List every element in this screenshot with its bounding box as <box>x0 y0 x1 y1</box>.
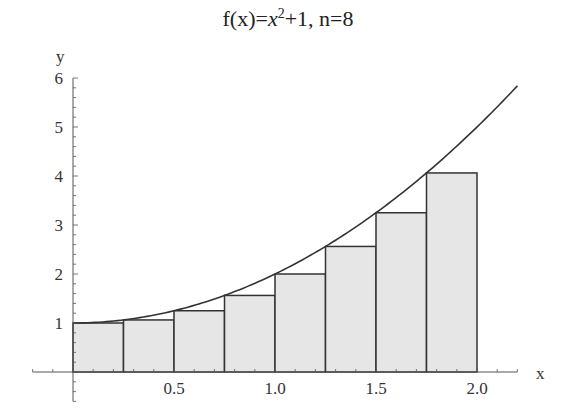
bar-3 <box>174 311 225 372</box>
x-tick-label: 2.0 <box>466 379 487 398</box>
x-tick-label: 1.5 <box>365 379 386 398</box>
bar-6 <box>326 246 377 372</box>
y-axis-label: y <box>56 47 65 66</box>
y-tick-label: 2 <box>55 265 64 284</box>
riemann-bars <box>73 173 477 372</box>
bar-1 <box>73 323 124 372</box>
riemann-sum-plot: 0.51.01.52.0123456 x y <box>0 0 576 416</box>
bar-5 <box>275 274 326 372</box>
bar-7 <box>376 213 427 372</box>
x-tick-label: 1.0 <box>264 379 285 398</box>
bar-8 <box>427 173 478 372</box>
bar-4 <box>225 295 276 372</box>
y-tick-label: 3 <box>55 216 64 235</box>
y-tick-label: 4 <box>55 167 64 186</box>
y-tick-label: 6 <box>55 69 64 88</box>
bar-2 <box>124 320 175 372</box>
y-tick-label: 1 <box>55 314 64 333</box>
x-tick-label: 0.5 <box>163 379 184 398</box>
x-axis-label: x <box>536 364 545 383</box>
y-tick-label: 5 <box>55 118 64 137</box>
